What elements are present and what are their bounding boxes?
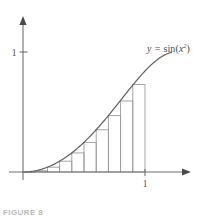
riemann-rectangle — [60, 161, 72, 172]
equation-variable: y — [146, 43, 152, 54]
riemann-rectangles — [23, 85, 145, 173]
figure-caption: FIGURE 8 — [3, 208, 123, 218]
curve-equation-label: y=sin(x2) — [146, 42, 190, 55]
y-axis-arrow-icon — [19, 16, 26, 25]
y-axis-tick-label-1: 1 — [12, 48, 17, 58]
equation-close-paren: ) — [187, 43, 190, 55]
plot-canvas: 1 1 y=sin(x2) — [0, 0, 215, 219]
riemann-rectangle — [133, 85, 145, 172]
riemann-rectangle — [84, 142, 96, 172]
svg-text:y=sin(x2): y=sin(x2) — [146, 42, 190, 55]
x-axis-tick-label-1: 1 — [143, 179, 148, 189]
riemann-sum-figure: 1 1 y=sin(x2) FIGURE 8 — [0, 0, 215, 219]
equation-function: sin — [163, 43, 175, 54]
riemann-rectangle — [108, 116, 120, 172]
riemann-rectangle — [121, 101, 133, 172]
equation-equals: = — [155, 43, 161, 54]
riemann-rectangle — [96, 130, 108, 172]
riemann-rectangle — [72, 153, 84, 172]
x-axis-arrow-icon — [182, 168, 191, 175]
riemann-rectangle — [47, 167, 59, 172]
function-curve-path — [23, 52, 172, 172]
